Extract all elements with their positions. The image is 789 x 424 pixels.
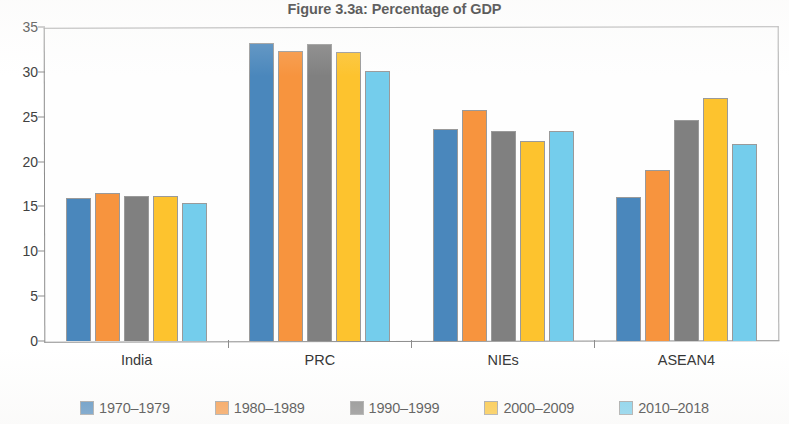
bar[interactable] (433, 129, 458, 341)
legend-label: 1970–1979 (99, 400, 170, 416)
x-axis-tick-mark (594, 340, 595, 348)
legend-swatch-icon (215, 401, 229, 415)
legend-swatch-icon (619, 401, 633, 415)
y-axis-tick-mark (38, 251, 45, 252)
bar-group (595, 27, 778, 341)
legend-label: 2000–2009 (503, 400, 574, 416)
bar-group (412, 27, 595, 341)
y-axis-tick-mark (38, 71, 45, 72)
bar[interactable] (645, 170, 670, 341)
legend-label: 1980–1989 (234, 400, 305, 416)
bar[interactable] (249, 43, 274, 341)
bar[interactable] (674, 120, 699, 341)
y-axis-tick-mark (38, 27, 45, 28)
bar[interactable] (124, 196, 149, 341)
y-axis: 05101520253035 (0, 27, 38, 342)
bar-group (45, 27, 228, 341)
bar[interactable] (462, 110, 487, 341)
bar[interactable] (549, 131, 574, 341)
bar[interactable] (520, 141, 545, 341)
y-axis-tick-mark (38, 296, 45, 297)
bar[interactable] (182, 203, 207, 341)
bar[interactable] (95, 193, 120, 341)
bar[interactable] (703, 98, 728, 341)
legend-item[interactable]: 1970–1979 (80, 400, 170, 416)
y-axis-tick-label: 25 (22, 109, 38, 125)
legend-swatch-icon (484, 401, 498, 415)
legend-label: 1990–1999 (369, 400, 440, 416)
chart-title: Figure 3.3a: Percentage of GDP (0, 1, 789, 17)
y-axis-tick-mark (38, 161, 45, 162)
y-axis-tick-label: 5 (30, 288, 38, 304)
chart-legend: 1970–19791980–19891990–19992000–20092010… (0, 396, 789, 420)
x-axis-tick-mark (228, 340, 229, 348)
y-axis-tick-mark (38, 116, 45, 117)
x-axis-tick-label: ASEAN4 (595, 352, 778, 376)
y-axis-tick-mark (38, 341, 45, 342)
bar[interactable] (66, 198, 91, 341)
legend-item[interactable]: 1990–1999 (350, 400, 440, 416)
y-axis-tick-label: 20 (22, 154, 38, 170)
bar[interactable] (732, 144, 757, 341)
bar[interactable] (307, 44, 332, 341)
y-axis-tick-label: 30 (22, 64, 38, 80)
x-axis-tick-label: NIEs (412, 352, 595, 376)
legend-item[interactable]: 1980–1989 (215, 400, 305, 416)
y-axis-tick-mark (38, 206, 45, 207)
bar-group (228, 27, 411, 341)
legend-label: 2010–2018 (638, 400, 709, 416)
bar[interactable] (365, 71, 390, 341)
plot-area (45, 27, 778, 341)
x-axis-tick-label: India (45, 352, 228, 376)
bar[interactable] (153, 196, 178, 341)
legend-item[interactable]: 2010–2018 (619, 400, 709, 416)
x-axis-tick-mark (411, 340, 412, 348)
legend-swatch-icon (350, 401, 364, 415)
x-axis-tick-label: PRC (228, 352, 411, 376)
chart-figure: Figure 3.3a: Percentage of GDP 051015202… (0, 0, 789, 424)
legend-item[interactable]: 2000–2009 (484, 400, 574, 416)
y-axis-tick-label: 15 (22, 198, 38, 214)
bar[interactable] (278, 51, 303, 341)
bar[interactable] (616, 197, 641, 341)
y-axis-tick-label: 10 (22, 243, 38, 259)
y-axis-tick-label: 0 (30, 333, 38, 349)
y-axis-tick-label: 35 (22, 19, 38, 35)
bar[interactable] (336, 52, 361, 341)
legend-swatch-icon (80, 401, 94, 415)
x-axis: IndiaPRCNIEsASEAN4 (45, 352, 778, 376)
bar[interactable] (491, 131, 516, 341)
